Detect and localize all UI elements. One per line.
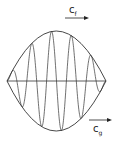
phase-velocity-subscript: f (75, 10, 77, 17)
group-velocity-subscript: g (99, 129, 103, 136)
phase-arrowhead-icon (84, 16, 89, 20)
phase-velocity-label: cf (69, 5, 77, 19)
group-arrowhead-icon (107, 118, 112, 122)
wave-packet-diagram (0, 0, 117, 143)
group-velocity-label: cg (93, 124, 102, 138)
